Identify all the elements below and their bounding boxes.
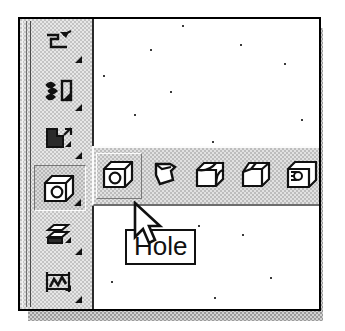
toolbar-button-shell[interactable] [34, 213, 86, 259]
scan-speck [212, 141, 214, 143]
flyout-arrow-icon[interactable] [74, 199, 81, 206]
flyout-button-shell[interactable] [142, 153, 188, 199]
flyout-button-fillet[interactable] [188, 153, 234, 199]
application-window: Hole [18, 17, 321, 311]
flyout-arrow-icon[interactable] [75, 56, 82, 63]
flyout-button-thread[interactable] [280, 153, 321, 199]
flyout-arrow-icon[interactable] [75, 152, 82, 159]
scan-speck [284, 63, 286, 65]
flyout-arrow-icon[interactable] [75, 104, 82, 111]
scan-speck [242, 234, 244, 236]
scan-speck [134, 114, 136, 116]
hole-icon [42, 173, 78, 203]
flyout-button-hole[interactable] [96, 153, 142, 199]
toolbar-button-sweep[interactable] [34, 21, 86, 67]
hole-flyout-toolbar [92, 146, 321, 206]
flyout-arrow-icon[interactable] [75, 296, 82, 303]
toolbar-button-coil[interactable] [34, 69, 86, 115]
toolbar-button-loft[interactable] [34, 117, 86, 163]
part-features-toolbar [34, 21, 90, 307]
scan-speck [182, 25, 184, 27]
scan-speck [270, 277, 272, 279]
flyout-button-chamfer[interactable] [234, 153, 280, 199]
pattern-icon [43, 269, 77, 299]
scan-speck [150, 49, 152, 51]
toolbar-drag-handle[interactable] [22, 21, 31, 307]
toolbar-button-hole[interactable] [34, 165, 86, 211]
shell-icon [43, 221, 77, 251]
scan-speck [214, 297, 216, 299]
sweep-icon [43, 29, 77, 59]
screenshot-root: Hole [0, 0, 345, 331]
scan-speck [103, 75, 105, 77]
shell-icon [148, 159, 182, 193]
left-toolbar-dock [20, 19, 94, 309]
mouse-pointer-icon [132, 201, 166, 249]
scan-speck [170, 91, 172, 93]
coil-icon [43, 77, 77, 107]
flyout-arrow-icon[interactable] [75, 248, 82, 255]
scan-speck [240, 44, 242, 46]
loft-icon [43, 125, 77, 155]
fillet-icon [193, 159, 229, 193]
scan-speck [111, 281, 113, 283]
toolbar-button-pattern[interactable] [34, 261, 86, 307]
scan-speck [301, 119, 303, 121]
hole-icon [101, 159, 137, 193]
thread-icon [285, 159, 321, 193]
scan-speck [198, 225, 200, 227]
chamfer-icon [239, 159, 275, 193]
